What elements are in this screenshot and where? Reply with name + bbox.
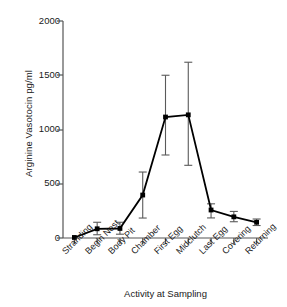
chart-figure: Arginine Vasotocin pg/ml 2000 1500 1000 …: [0, 0, 287, 307]
x-axis-title: Activity at Sampling: [63, 288, 268, 299]
x-axis-tick-labels: StrandingBegin NestBody PitChamberFirst …: [0, 0, 287, 307]
